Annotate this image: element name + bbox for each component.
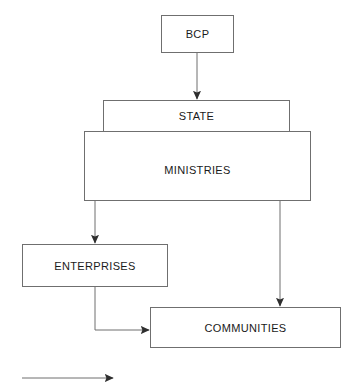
node-ministries-label: MINISTRIES: [164, 164, 230, 176]
diagram-canvas: BCP STATE MINISTRIES ENTERPRISES COMMUNI…: [0, 0, 362, 389]
node-communities-label: COMMUNITIES: [204, 322, 286, 334]
edge-enterprises-to-communities: [95, 287, 149, 330]
node-state-label: STATE: [179, 110, 215, 122]
node-enterprises-label: ENTERPRISES: [54, 260, 135, 272]
node-ministries[interactable]: MINISTRIES: [84, 131, 311, 201]
node-bcp[interactable]: BCP: [161, 15, 234, 53]
node-communities[interactable]: COMMUNITIES: [150, 307, 341, 348]
legend: Relations of Dominance and Control: [0, 366, 362, 389]
node-bcp-label: BCP: [186, 28, 210, 40]
node-state[interactable]: STATE: [103, 100, 290, 132]
node-enterprises[interactable]: ENTERPRISES: [22, 244, 168, 287]
